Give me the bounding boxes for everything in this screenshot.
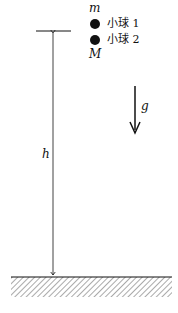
gravity-g-label: g — [141, 100, 149, 112]
ground — [11, 277, 172, 297]
ball-1-icon — [90, 19, 100, 29]
height-h-label: h — [42, 148, 50, 160]
legend-ball-1-label: 小球 1 — [107, 18, 140, 29]
mass-m-label: m — [89, 2, 100, 14]
legend-ball-2-label: 小球 2 — [107, 34, 140, 45]
gravity-arrow-icon — [130, 86, 140, 133]
ball-2-icon — [90, 35, 100, 45]
mass-M-label: M — [89, 48, 101, 60]
